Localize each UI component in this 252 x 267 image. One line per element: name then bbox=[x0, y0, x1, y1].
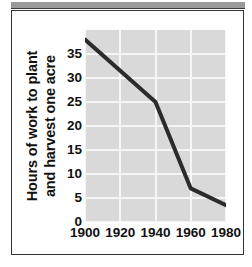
y-axis-title-line-1: Hours of work to plant bbox=[24, 51, 40, 202]
top-decorative-band bbox=[11, 2, 245, 9]
line-series bbox=[85, 30, 226, 222]
y-axis-tick-label: 10 bbox=[67, 167, 82, 181]
y-axis-title-line-2: and harvest one acre bbox=[42, 55, 58, 197]
plot-area bbox=[85, 30, 226, 222]
x-axis-tick-label: 1960 bbox=[176, 226, 206, 240]
y-axis-tick-label: 15 bbox=[67, 143, 82, 157]
y-axis-tick-labels: 05101520253035 bbox=[57, 30, 82, 222]
x-axis-tick-label: 1920 bbox=[105, 226, 135, 240]
x-axis-tick-labels: 19001920194019601980 bbox=[85, 226, 226, 246]
y-axis-tick-label: 20 bbox=[67, 119, 82, 133]
y-axis-tick-label: 5 bbox=[74, 191, 82, 205]
y-axis-tick-label: 25 bbox=[67, 95, 82, 109]
x-axis-tick-label: 1980 bbox=[211, 226, 241, 240]
series-polyline bbox=[85, 40, 226, 206]
x-axis-tick-label: 1900 bbox=[70, 226, 100, 240]
y-axis-tick-label: 30 bbox=[67, 71, 82, 85]
x-axis-tick-label: 1940 bbox=[140, 226, 170, 240]
y-axis-tick-label: 35 bbox=[67, 47, 82, 61]
